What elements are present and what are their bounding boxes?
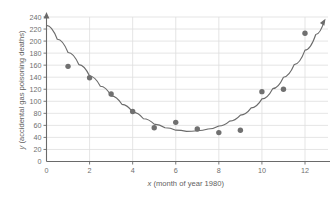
y-axis-tick-label: 140: [30, 73, 42, 82]
chart-canvas: 024681012 020406080100120140160180200220…: [0, 0, 332, 197]
x-axis-tick-label: 2: [88, 166, 92, 175]
data-point-marker: [259, 89, 264, 94]
scatter-plot-figure: 024681012 020406080100120140160180200220…: [0, 0, 332, 197]
x-axis-tick-label: 12: [301, 166, 309, 175]
data-point-marker: [173, 120, 178, 125]
x-axis-tick-label: 0: [45, 166, 49, 175]
y-axis-tick-label: 40: [34, 133, 42, 142]
data-point-marker: [87, 75, 92, 80]
data-point-marker: [152, 125, 157, 130]
svg-text:x (month of year 1980): x (month of year 1980): [147, 179, 225, 188]
data-point-marker: [65, 64, 70, 69]
data-point-marker: [130, 109, 135, 114]
y-axis-tick-label: 160: [30, 61, 42, 70]
y-axis-tick-label: 0: [38, 157, 42, 166]
y-axis-tick-label: 220: [30, 25, 42, 34]
y-axis-tick-label: 200: [30, 37, 42, 46]
x-axis-tick-label: 4: [131, 166, 135, 175]
data-point-marker: [108, 91, 113, 96]
y-axis-tick-label: 80: [34, 109, 42, 118]
y-axis-tick-label: 120: [30, 85, 42, 94]
x-axis-title: x (month of year 1980): [147, 179, 225, 188]
y-axis-title: y (accidental gas poisoning deaths): [17, 30, 26, 151]
data-point-marker: [238, 127, 243, 132]
x-axis-tick-label: 6: [174, 166, 178, 175]
data-point-marker: [281, 87, 286, 92]
y-axis-tick-label: 20: [34, 145, 42, 154]
data-point-marker: [216, 130, 221, 135]
svg-text:y (accidental gas poisoning de: y (accidental gas poisoning deaths): [17, 30, 26, 151]
data-point-marker: [302, 31, 307, 36]
y-axis-tick-label: 100: [30, 97, 42, 106]
y-axis-tick-label: 180: [30, 49, 42, 58]
x-axis-tick-label: 8: [217, 166, 221, 175]
y-axis-tick-label: 240: [30, 13, 42, 22]
x-axis-tick-label: 10: [258, 166, 266, 175]
data-point-marker: [195, 126, 200, 131]
y-axis-tick-label: 60: [34, 121, 42, 130]
chart-background: [0, 0, 332, 197]
